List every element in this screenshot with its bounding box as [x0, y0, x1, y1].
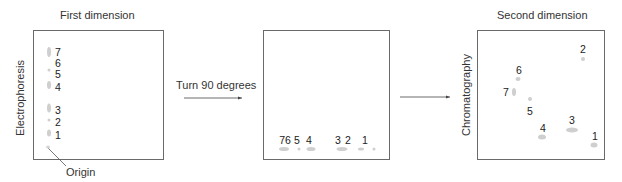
origin-pointer-line: [48, 148, 66, 166]
origin-marker: [46, 146, 50, 149]
connectors: [0, 0, 622, 182]
